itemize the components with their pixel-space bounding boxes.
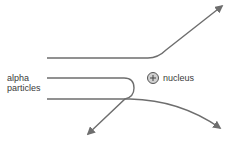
path-deflected-up (47, 6, 222, 58)
nucleus-icon (148, 73, 159, 84)
alpha-label-line2: particles (7, 83, 41, 93)
alpha-label-line1: alpha (7, 73, 41, 83)
nucleus-label: nucleus (163, 73, 194, 83)
alpha-particles-label: alpha particles (7, 73, 41, 93)
path-deflected-down (47, 99, 220, 128)
path-back-scattered (47, 78, 134, 134)
